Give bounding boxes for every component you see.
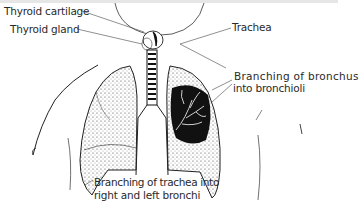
label-thyroid-gland: Thyroid gland (10, 23, 79, 35)
label-bronchus-branching: Branching of bronchus (234, 70, 359, 82)
bronchiole-tree (171, 85, 211, 143)
label-thyroid-cartilage: Thyroid cartilage (4, 5, 89, 17)
label-trachea-branching: Branching of trachea into (94, 176, 219, 188)
thyroid-gland (143, 31, 163, 49)
label-bronchus-branching-line2: into bronchioli (233, 82, 305, 94)
label-trachea-branching-line2: right and left bronchi (94, 189, 200, 201)
jaw-outline (115, 3, 204, 35)
left-side-outline (68, 138, 71, 190)
label-trachea: Trachea (232, 21, 272, 33)
right-side-outline (258, 135, 260, 200)
